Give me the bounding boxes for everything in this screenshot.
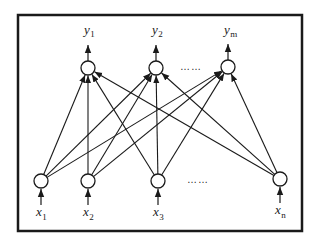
input-label-x3: x3 (152, 204, 164, 222)
output-node-y1 (81, 61, 95, 75)
output-label-subscript: 2 (158, 29, 163, 39)
output-label-ym: ym (222, 22, 237, 39)
edge-x1-y2 (46, 73, 151, 176)
edge-xn-y2 (162, 73, 275, 174)
input-node-x1 (34, 174, 48, 188)
input-label-subscript: 1 (42, 212, 47, 222)
input-label-x1: x1 (35, 204, 47, 222)
input-label-subscript: 2 (89, 212, 94, 222)
edge-xn-y1 (94, 72, 273, 176)
output-label-y2: y2 (150, 22, 163, 39)
input-node-x2 (81, 174, 95, 188)
input-node-xn (273, 172, 287, 186)
output-label-y1: y1 (82, 22, 95, 39)
edge-xn-ym (231, 74, 277, 173)
output-ellipsis: …… (180, 61, 202, 72)
output-node-ym (221, 60, 235, 74)
edge-x1-y1 (44, 75, 85, 175)
output-node-y2 (149, 61, 163, 75)
nodes (34, 60, 287, 188)
neural-network-diagram: y1y2ymx1x2x3xn …… …… (0, 0, 318, 244)
output-label-subscript: m (230, 29, 237, 39)
output-label-subscript: 1 (90, 29, 95, 39)
input-node-x3 (151, 174, 165, 188)
input-ellipsis: …… (187, 174, 209, 185)
edge-x1-ym (47, 71, 222, 177)
connection-edges (44, 71, 277, 177)
input-label-x2: x2 (82, 204, 94, 222)
input-label-subscript: 3 (159, 212, 164, 222)
input-label-subscript: n (281, 210, 286, 220)
input-label-xn: xn (274, 202, 286, 220)
